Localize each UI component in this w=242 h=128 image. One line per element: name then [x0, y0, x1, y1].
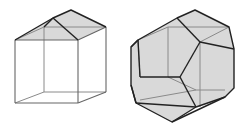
polyhedra-figure: [0, 0, 242, 128]
diagram: [0, 0, 242, 128]
cube-with-roof: [15, 10, 106, 103]
truncated-polyhedron: [131, 10, 234, 122]
